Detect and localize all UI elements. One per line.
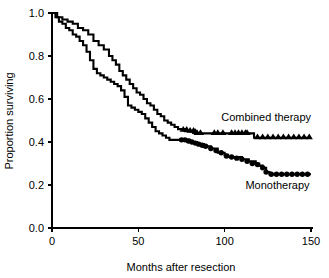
censor-circle-1-11: [224, 153, 229, 158]
censor-circle-1-12: [229, 154, 234, 159]
censor-circle-1-18: [260, 165, 265, 170]
censor-circle-1-23: [284, 172, 289, 177]
censor-circle-1-13: [234, 155, 239, 160]
x-tick-label-50: 50: [132, 235, 144, 247]
y-tick-label-0.2: 0.2: [29, 179, 44, 191]
censor-circle-1-16: [250, 161, 255, 166]
survival-chart-figure: 0.00.20.40.60.81.0 050100150 Combined th…: [0, 0, 329, 278]
censor-circle-1-25: [294, 172, 299, 177]
censor-circle-1-14: [239, 157, 244, 162]
y-tick-label-1.0: 1.0: [29, 7, 44, 19]
y-tick-label-0.8: 0.8: [29, 50, 44, 62]
y-axis-title: Proportion surviving: [3, 72, 15, 169]
censor-circle-1-9: [213, 148, 218, 153]
censor-circle-1-10: [219, 150, 224, 155]
censor-circle-1-17: [255, 162, 260, 167]
x-axis-ticks: 050100150: [49, 228, 320, 247]
y-axis-ticks: 0.00.20.40.60.81.0: [29, 7, 52, 234]
censor-triangle-0-26: [306, 134, 313, 140]
censor-circle-1-21: [274, 172, 279, 177]
series-label-combined-therapy: Combined therapy: [221, 111, 311, 123]
y-tick-label-0.4: 0.4: [29, 136, 44, 148]
x-axis-title: Months after resection: [127, 261, 236, 273]
censor-circle-1-26: [300, 172, 305, 177]
x-tick-label-0: 0: [49, 235, 55, 247]
censoring-marks: [179, 126, 313, 177]
curve-monotherapy: [52, 13, 311, 174]
censor-circle-1-27: [305, 172, 310, 177]
censor-circle-1-20: [269, 172, 274, 177]
censor-triangle-0-9: [219, 129, 226, 135]
series-label-monotherapy: Monotherapy: [245, 179, 310, 191]
censor-circle-1-8: [208, 146, 213, 151]
censor-circle-1-7: [203, 144, 208, 149]
censor-circle-1-22: [279, 172, 284, 177]
x-tick-label-150: 150: [302, 235, 320, 247]
series-annotations: Combined therapyMonotherapy: [221, 111, 311, 192]
censor-circle-1-24: [289, 172, 294, 177]
y-tick-label-0.6: 0.6: [29, 93, 44, 105]
censor-circle-1-19: [263, 169, 268, 174]
x-tick-label-100: 100: [215, 235, 233, 247]
y-tick-label-0.0: 0.0: [29, 222, 44, 234]
kaplan-meier-plot: 0.00.20.40.60.81.0 050100150 Combined th…: [0, 0, 329, 278]
censor-circle-1-15: [244, 159, 249, 164]
survival-curves: [52, 13, 311, 174]
